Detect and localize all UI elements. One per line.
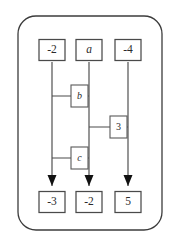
output-box-left-label: -3	[47, 195, 57, 207]
input-box-middle-label: a	[86, 43, 92, 55]
arrowhead-right	[124, 175, 133, 186]
output-box-right-label: 5	[125, 195, 131, 207]
gate-3-label: 3	[116, 121, 121, 132]
output-box-middle-label: -2	[84, 195, 94, 207]
arrowhead-left	[48, 175, 57, 186]
gate-c-label: c	[77, 152, 82, 163]
input-box-left-label: -2	[47, 43, 57, 55]
input-box-right-label: -4	[123, 43, 133, 55]
circuit-diagram: b3c-2a-4-3-25	[0, 0, 179, 246]
diagram-canvas: b3c-2a-4-3-25	[0, 0, 179, 246]
arrowhead-middle	[85, 175, 94, 186]
gate-b-label: b	[77, 90, 82, 101]
